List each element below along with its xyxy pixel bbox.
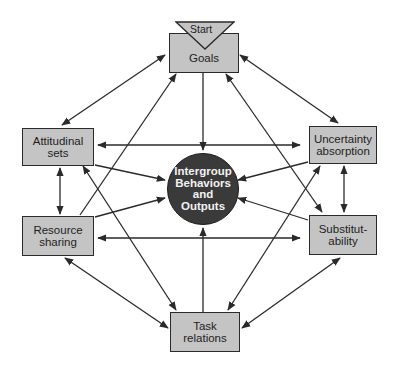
goals-label: Goals <box>189 52 219 64</box>
node-resource-sharing: Resource sharing <box>22 216 94 256</box>
node-attitudinal-sets: Attitudinal sets <box>22 128 94 166</box>
node-task-relations: Task relations <box>170 312 240 352</box>
node-intergroup-behaviors-outputs: Intergroup Behaviors and Outputs <box>167 153 239 225</box>
node-uncertainty-absorption: Uncertainty absorption <box>309 126 377 164</box>
node-substitutability: Substitut- ability <box>309 215 377 255</box>
start-label: Start <box>190 23 212 35</box>
